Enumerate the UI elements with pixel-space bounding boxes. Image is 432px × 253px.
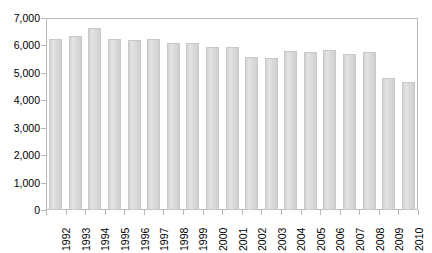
y-tick-label: 3,000 <box>0 123 40 133</box>
bar <box>167 43 180 210</box>
x-tick-label: 2000 <box>217 213 229 251</box>
bar <box>304 52 317 210</box>
y-tick-label: 7,000 <box>0 13 40 23</box>
y-tick-label: 0 <box>0 205 40 215</box>
bar <box>343 54 356 210</box>
x-tick-label: 2009 <box>393 213 405 251</box>
x-tick-label: 1993 <box>80 213 92 251</box>
bar-chart: 7,0006,0005,0004,0003,0002,0001,0000 199… <box>0 0 432 253</box>
x-tick-label: 1997 <box>158 213 170 251</box>
bar <box>284 51 297 210</box>
bar <box>265 58 278 210</box>
x-tick-label: 1995 <box>119 213 131 251</box>
y-tick-label: 5,000 <box>0 68 40 78</box>
bar <box>382 78 395 210</box>
x-tick-label: 2003 <box>276 213 288 251</box>
bar <box>206 47 219 210</box>
x-tick-label: 2008 <box>374 213 386 251</box>
y-tick-label: 1,000 <box>0 178 40 188</box>
x-tick-label: 2001 <box>237 213 249 251</box>
bar <box>245 57 258 210</box>
bar <box>69 36 82 210</box>
bar-series <box>46 18 418 210</box>
bar <box>128 40 141 210</box>
y-tick-label: 6,000 <box>0 40 40 50</box>
y-tick-label: 4,000 <box>0 95 40 105</box>
x-tick-label: 2002 <box>256 213 268 251</box>
x-tick-label: 1992 <box>60 213 72 251</box>
x-tick-label: 2005 <box>315 213 327 251</box>
bar <box>363 52 376 210</box>
bar <box>147 39 160 210</box>
x-tick-label: 1998 <box>178 213 190 251</box>
x-tick-label: 1999 <box>197 213 209 251</box>
x-axis: 1992199319941995199619971998199920002001… <box>46 215 418 253</box>
x-tick-label: 2004 <box>295 213 307 251</box>
x-tick-label: 2006 <box>334 213 346 251</box>
y-tick-label: 2,000 <box>0 150 40 160</box>
bar <box>108 39 121 210</box>
x-tick-label: 1996 <box>139 213 151 251</box>
y-axis: 7,0006,0005,0004,0003,0002,0001,0000 <box>0 0 40 253</box>
bar <box>186 43 199 210</box>
x-tick-label: 1994 <box>99 213 111 251</box>
bar <box>226 47 239 210</box>
bar <box>88 28 101 210</box>
bar <box>323 50 336 210</box>
x-tick-label: 2007 <box>354 213 366 251</box>
x-tick-label: 2010 <box>413 213 425 251</box>
bar <box>402 82 415 210</box>
bar <box>49 39 62 210</box>
